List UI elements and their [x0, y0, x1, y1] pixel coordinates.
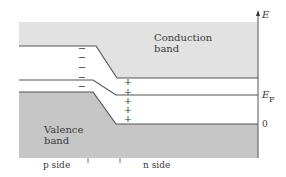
energy-axis-arrow-icon — [256, 10, 260, 16]
minus-sign: − — [78, 81, 86, 92]
conduction-band-region — [19, 22, 258, 78]
energy-axis-label: E — [261, 9, 270, 20]
negative-charges: − − − − − — [78, 43, 86, 92]
conduction-band-label-line1: Conduction — [154, 32, 213, 43]
plus-sign: + — [124, 113, 132, 124]
valence-band-label-line2: band — [44, 135, 70, 146]
conduction-band-label-line2: band — [154, 43, 180, 54]
band-diagram: − − − − − + + + + + Conduction band Vale… — [0, 0, 286, 177]
zero-label: 0 — [262, 119, 268, 129]
fermi-level-subscript: F — [269, 95, 275, 104]
positive-charges: + + + + + — [124, 76, 132, 124]
n-side-label: n side — [143, 160, 170, 170]
p-side-label: p side — [43, 160, 70, 170]
valence-band-label-line1: Valence — [43, 124, 83, 135]
